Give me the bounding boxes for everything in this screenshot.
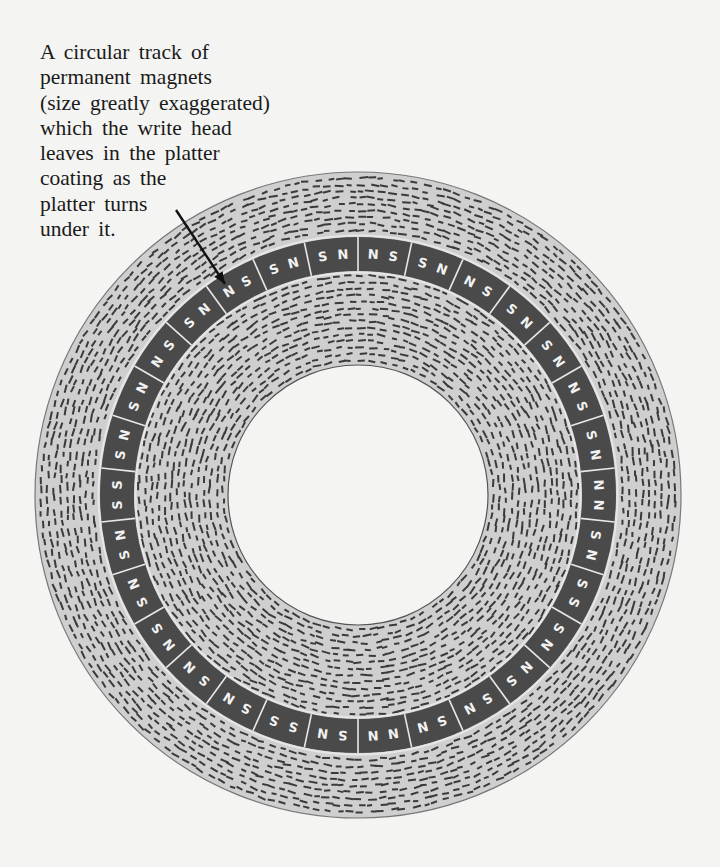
north-pole-label: N [591,479,606,491]
south-pole-label: S [338,728,348,744]
north-pole-label: N [316,725,329,741]
disk-platter-diagram: NNSSNNSSNSNNSSNNNSNSSSNNSSNSNNNSNSSSNSNN… [0,0,720,867]
north-pole-label: N [591,499,606,511]
north-pole-label: N [367,247,379,263]
south-pole-label: S [110,500,125,510]
north-pole-label: N [367,728,379,744]
spindle-hole [228,365,488,625]
north-pole-label: N [387,725,400,741]
north-pole-label: N [337,247,349,263]
south-pole-label: S [110,480,125,490]
